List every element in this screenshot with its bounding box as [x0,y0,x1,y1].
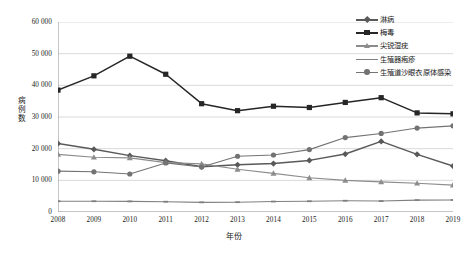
data-point [307,105,312,110]
data-point [58,169,61,174]
data-point [127,171,132,176]
data-point [414,110,419,115]
x-tick-label: 2016 [338,215,353,225]
x-tick-label: 2014 [266,215,281,225]
data-point [307,147,312,152]
legend-swatch-icon [356,28,378,38]
data-point [91,146,97,152]
data-point [58,87,61,92]
legend-label: 生殖器疱疹 [380,55,416,64]
legend-item-5[interactable]: 生殖道沙眼衣原体感染 [356,66,468,79]
x-tick-label: 2008 [51,215,66,225]
data-point [450,123,453,128]
series-3 [58,151,453,187]
legend-item-1[interactable]: 淋病 [356,13,468,26]
legend-swatch-icon [356,67,378,77]
data-point [235,108,240,113]
x-tick-label: 2011 [158,215,173,225]
data-point [450,111,453,116]
y-tick-label: 40 000 [32,81,52,89]
data-point [271,104,276,109]
legend-swatch-icon [356,41,378,51]
x-tick-label: 2018 [410,215,425,225]
legend-marker-circle [364,69,370,75]
line-chart: 病例数 010 00020 00030 00040 00050 00060 00… [0,0,468,258]
data-point [414,125,419,130]
legend-item-2[interactable]: 梅毒 [356,26,468,39]
data-point [379,131,384,136]
data-point [306,157,312,163]
y-tick-label: 60 000 [32,18,52,26]
legend-label: 淋病 [380,15,394,24]
legend-item-3[interactable]: 尖锐湿疣 [356,39,468,52]
legend-swatch-icon [356,54,378,64]
legend-swatch-icon [356,15,378,25]
x-tick-label: 2015 [302,215,317,225]
data-point [163,160,168,165]
y-tick-label: 20 000 [32,145,52,153]
chart-legend: 淋病梅毒尖锐湿疣生殖器疱疹生殖道沙眼衣原体感染 [356,13,468,79]
legend-line [356,59,378,60]
legend-marker-square [364,30,370,36]
legend-marker-diamond [364,16,370,22]
data-point [379,95,384,100]
data-point [342,151,348,157]
y-axis-tick-labels: 010 00020 00030 00040 00050 00060 000 [0,22,56,212]
series-line [58,200,453,202]
data-point [378,138,384,144]
data-point [163,72,168,77]
x-tick-label: 2012 [194,215,209,225]
x-tick-label: 2013 [230,215,245,225]
data-point [343,135,348,140]
data-point [91,169,96,174]
x-tick-label: 2017 [374,215,389,225]
data-point [199,101,204,106]
data-point [91,73,96,78]
x-tick-label: 2010 [122,215,137,225]
legend-item-4[interactable]: 生殖器疱疹 [356,53,468,66]
data-point [343,100,348,105]
series-line [58,141,453,166]
x-axis-tick-labels: 2008200920102011201220132014201520162017… [58,215,453,229]
y-tick-label: 50 000 [32,50,52,58]
data-point [199,164,204,169]
legend-label: 生殖道沙眼衣原体感染 [380,68,451,77]
legend-label: 梅毒 [380,28,394,37]
series-5 [58,123,453,176]
legend-label: 尖锐湿疣 [380,41,408,50]
series-4 [58,200,453,202]
data-point [270,160,276,166]
series-1 [58,138,453,170]
x-axis-title: 年份 [0,230,468,241]
legend-marker-triangle [364,43,370,48]
data-point [127,54,132,59]
y-tick-label: 10 000 [32,176,52,184]
data-point [58,141,61,147]
data-point [235,154,240,159]
series-line [58,126,453,174]
data-point [414,151,420,157]
data-point [450,163,453,169]
data-point [271,152,276,157]
y-tick-label: 30 000 [32,113,52,121]
x-tick-label: 2019 [446,215,461,225]
x-tick-label: 2009 [87,215,102,225]
